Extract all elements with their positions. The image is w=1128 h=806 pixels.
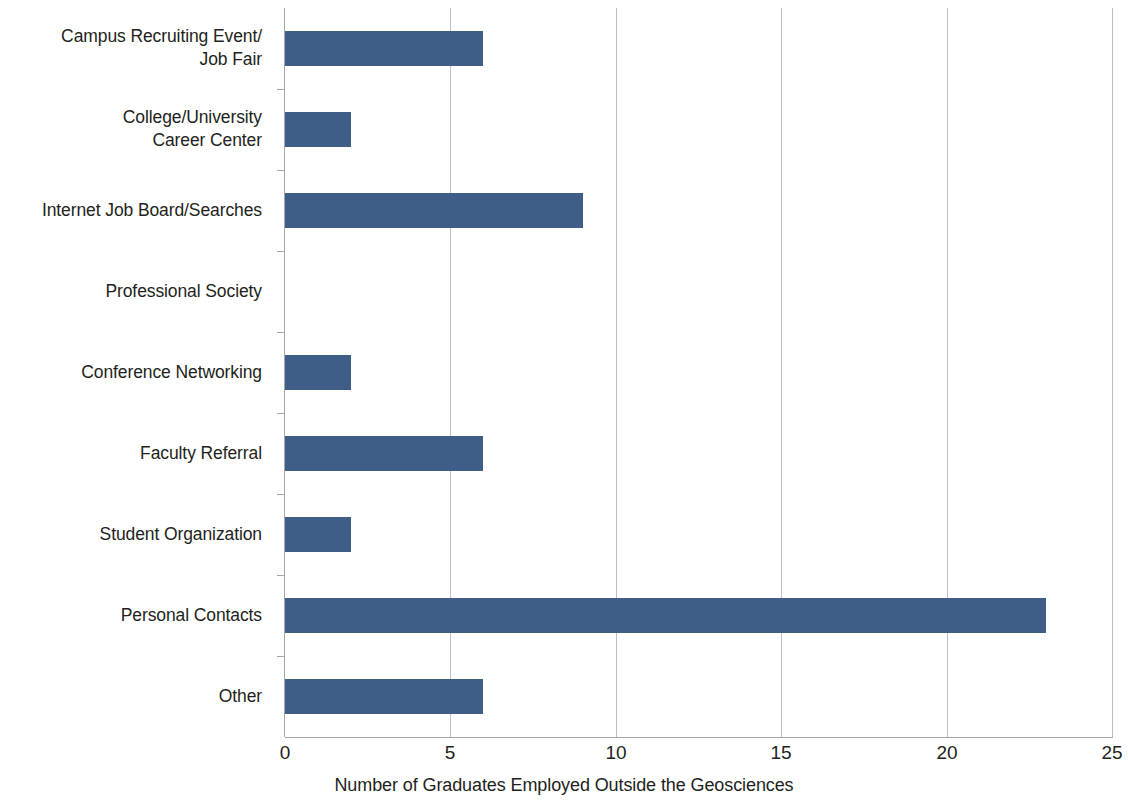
value-axis-title: Number of Graduates Employed Outside the…: [0, 775, 1128, 796]
gridline: [1112, 8, 1113, 737]
bar: [285, 31, 483, 66]
category-tick: [277, 656, 285, 657]
bar: [285, 193, 583, 228]
category-label: Professional Society: [0, 280, 262, 303]
value-tick-label: 25: [1101, 742, 1122, 764]
bar: [285, 436, 483, 471]
value-tick-label: 10: [605, 742, 626, 764]
value-tick-label: 15: [770, 742, 791, 764]
category-axis: Campus Recruiting Event/ Job FairCollege…: [0, 8, 272, 737]
bar-chart: Campus Recruiting Event/ Job FairCollege…: [0, 0, 1128, 806]
category-tick: [277, 575, 285, 576]
category-label: Other: [0, 685, 262, 708]
category-label: College/University Career Center: [0, 106, 262, 153]
value-axis-tick-labels: 0510152025: [0, 742, 1128, 772]
value-tick-label: 0: [280, 742, 291, 764]
category-tick: [277, 494, 285, 495]
category-label: Conference Networking: [0, 361, 262, 384]
axis-baseline: [285, 737, 1113, 738]
category-tick: [277, 89, 285, 90]
category-tick: [277, 413, 285, 414]
category-label: Student Organization: [0, 523, 262, 546]
value-axis-line: [284, 8, 285, 737]
category-tick: [277, 251, 285, 252]
value-tick-label: 5: [445, 742, 456, 764]
bar: [285, 598, 1046, 633]
category-label: Personal Contacts: [0, 604, 262, 627]
bar: [285, 517, 351, 552]
category-tick: [277, 332, 285, 333]
bar: [285, 679, 483, 714]
plot-area: [285, 8, 1112, 737]
value-tick-label: 20: [936, 742, 957, 764]
category-label: Faculty Referral: [0, 442, 262, 465]
bar: [285, 112, 351, 147]
category-label: Internet Job Board/Searches: [0, 199, 262, 222]
bar: [285, 355, 351, 390]
category-tick: [277, 170, 285, 171]
category-label: Campus Recruiting Event/ Job Fair: [0, 25, 262, 72]
